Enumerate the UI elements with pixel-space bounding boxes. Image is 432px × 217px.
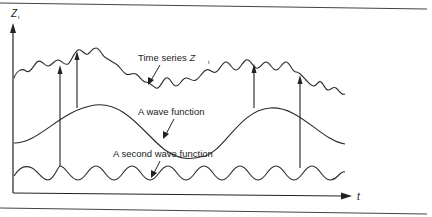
y-axis-label: Z	[10, 8, 18, 19]
wave-decomposition-diagram: Z t t Time series Z t A wave function A …	[0, 0, 432, 217]
y-axis-arrowhead-icon	[10, 23, 16, 33]
x-axis	[13, 193, 352, 200]
second-wave-function-label: A second wave function	[113, 148, 213, 159]
x-axis-label: t	[357, 191, 361, 202]
time-series-label: Time series Z	[138, 52, 196, 63]
x-axis-arrowhead-icon	[341, 193, 352, 200]
bottom-rule	[0, 208, 427, 214]
wave-function-pointer-arrowhead-icon	[163, 131, 169, 139]
second-wave-function-curve	[14, 166, 345, 180]
time-series-label-subscript: t	[208, 59, 210, 65]
wave-function-label: A wave function	[138, 106, 205, 117]
y-axis	[10, 23, 16, 193]
y-axis-label-subscript: t	[18, 14, 20, 20]
top-rule	[0, 3, 427, 9]
